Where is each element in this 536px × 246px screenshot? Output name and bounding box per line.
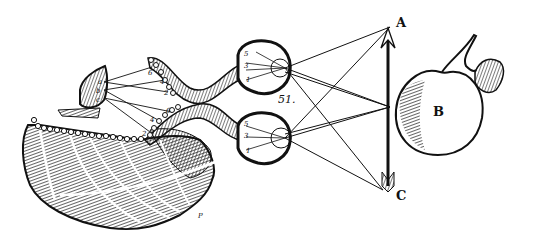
label-eye-top-3: 3 — [244, 62, 249, 70]
figure-number: 51. — [278, 93, 296, 106]
eye-upper: 5 3 1 — [238, 41, 290, 94]
label-nerve-top-4: 4 — [159, 78, 164, 86]
label-eye-bottom-3: 3 — [244, 132, 249, 140]
label-eye-bottom-1: 1 — [246, 147, 250, 155]
label-eye-top-5: 5 — [244, 50, 249, 58]
label-eye-top-1: 1 — [246, 76, 250, 84]
label-nerve-bottom-2: 2 — [141, 130, 147, 138]
vision-woodcut-figure: P a b c 6 4 2 6 4 2 — [0, 0, 536, 246]
label-eye-bottom-5: 5 — [244, 120, 249, 128]
pineal-gland: a b c — [58, 66, 107, 118]
label-brain-p: P — [197, 212, 203, 220]
label-nerve-top-6: 6 — [148, 69, 153, 77]
label-pineal-b: b — [96, 87, 101, 95]
label-nerve-bottom-6: 6 — [166, 107, 171, 115]
brain: P — [23, 117, 215, 229]
label-a: A — [395, 15, 407, 30]
woodcut-illustration: P a b c 6 4 2 6 4 2 — [0, 0, 536, 246]
light-rays — [285, 27, 390, 190]
label-pineal-c: c — [96, 96, 100, 104]
label-b: B — [433, 104, 444, 119]
label-nerve-bottom-4: 4 — [149, 116, 154, 124]
label-c: C — [396, 188, 406, 203]
optic-nerve-upper: 6 4 2 — [148, 58, 240, 104]
label-nerve-top-2: 2 — [163, 89, 169, 97]
label-pineal-a: a — [98, 78, 102, 86]
apple: B — [396, 35, 504, 155]
eye-lower: 5 3 1 — [238, 113, 291, 164]
